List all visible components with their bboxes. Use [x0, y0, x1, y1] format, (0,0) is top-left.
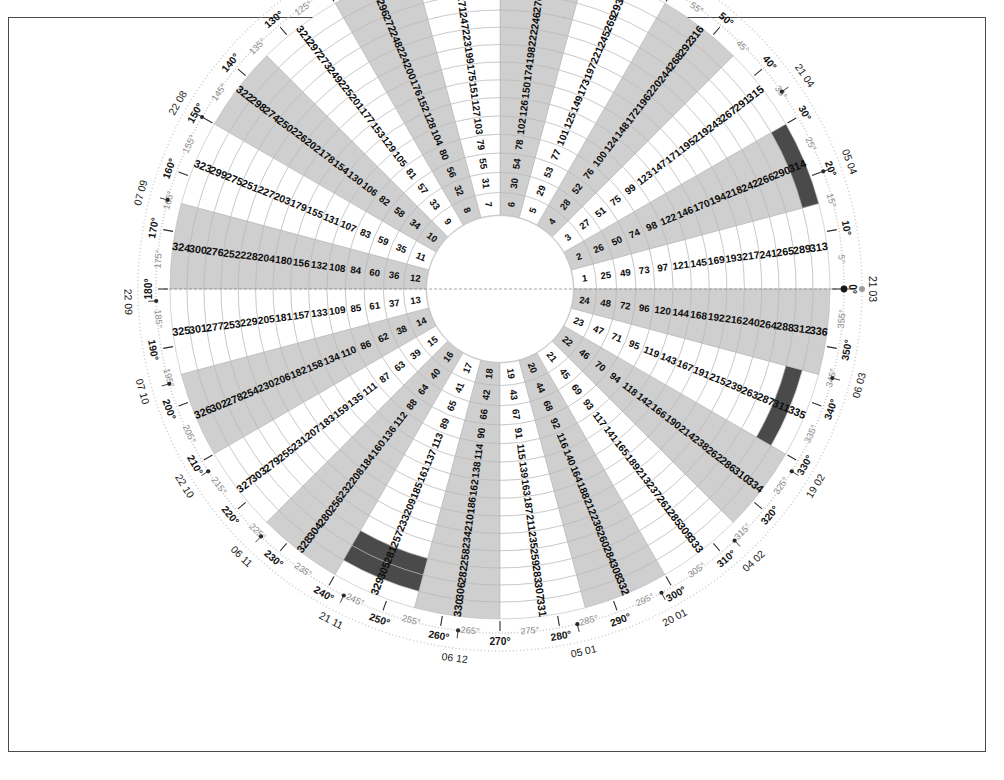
cell-number: 18: [483, 368, 495, 380]
cell-number: 301: [188, 322, 207, 336]
cell-number: 19: [505, 368, 517, 380]
degree-tick: [204, 118, 213, 123]
cell-number: 169: [707, 254, 726, 267]
degree-label: 140°: [219, 51, 241, 74]
degree-label: 265°: [460, 625, 480, 637]
degree-label: 250°: [368, 611, 392, 629]
cell-number: 43: [508, 389, 520, 401]
date-label: 22 10: [173, 472, 196, 500]
date-tick-dot: [259, 534, 263, 538]
cell-number: 187: [522, 496, 535, 515]
degree-label: 220°: [219, 504, 241, 527]
cell-number: 300: [188, 242, 207, 256]
date-tick-dot: [200, 115, 204, 119]
degree-label: 270°: [489, 636, 510, 647]
cell-number: 91: [513, 427, 525, 440]
degree-tick: [666, 577, 671, 586]
date-label: 21 03: [867, 276, 878, 302]
cell-number: 48: [600, 297, 612, 309]
cell-number: 180: [275, 254, 294, 267]
degree-label: 45°: [734, 38, 751, 55]
cell-number: 162: [467, 478, 480, 497]
degree-label: 275°: [520, 625, 540, 637]
date-label: 20 01: [661, 606, 689, 628]
cell-number: 271: [455, 0, 469, 14]
cell-number: 228: [240, 249, 259, 262]
degree-label: 200°: [160, 398, 178, 422]
degree-label: 40°: [760, 53, 778, 72]
degree-label: 230°: [262, 548, 285, 570]
cell-number: 55: [477, 158, 489, 171]
cell-number: 79: [475, 139, 487, 152]
cell-number: 247: [458, 11, 472, 30]
cell-number: 331: [535, 598, 549, 618]
cell-number: 258: [458, 548, 472, 567]
zero-degree-marker: [841, 286, 848, 293]
degree-label: 225°: [247, 521, 268, 542]
cell-number: 222: [526, 28, 539, 47]
degree-label: 335°: [802, 423, 819, 445]
degree-label: 135°: [247, 36, 268, 57]
cell-number: 132: [310, 259, 328, 272]
degree-tick: [713, 27, 719, 35]
degree-label: 240°: [312, 584, 336, 604]
degree-tick: [179, 403, 188, 406]
degree-tick: [280, 543, 286, 551]
polar-chart[interactable]: 1254973971211451691932172412652893132265…: [0, 0, 1004, 780]
cell-number: 144: [672, 306, 690, 319]
cell-number: 198: [524, 46, 537, 65]
degree-tick: [204, 455, 213, 460]
cell-number: 138: [470, 460, 483, 478]
date-tick-dot: [733, 538, 737, 542]
date-tick-dot: [167, 382, 171, 386]
degree-label: 30°: [796, 104, 813, 123]
degree-label: 185°: [152, 309, 164, 329]
degree-tick: [329, 577, 334, 586]
cell-number: 126: [517, 99, 530, 117]
date-label: 07 09: [132, 179, 149, 207]
degree-label: 305°: [686, 560, 708, 579]
date-label: 06 12: [441, 651, 468, 665]
degree-label: 5°: [836, 254, 847, 264]
cell-number: 36: [388, 269, 400, 281]
degree-tick: [163, 347, 173, 349]
degree-tick: [788, 118, 797, 123]
date-label: 21 04: [793, 62, 817, 90]
cell-number: 277: [205, 319, 224, 333]
cell-number: 114: [472, 443, 485, 461]
cell-number: 216: [724, 313, 743, 326]
cell-number: 103: [472, 117, 485, 135]
cell-number: 90: [475, 427, 487, 439]
degree-label: 15°: [825, 192, 838, 208]
cell-number: 252: [222, 247, 241, 261]
chart-canvas: 1254973971211451691932172412652893132265…: [0, 0, 1004, 780]
cell-number: 49: [619, 266, 631, 278]
degree-tick: [713, 543, 719, 551]
degree-label: 285°: [578, 613, 599, 628]
date-label: 19 02: [804, 472, 827, 500]
date-label: 06 11: [229, 544, 255, 570]
date-tick-dot: [821, 169, 825, 173]
cell-number: 217: [742, 249, 761, 262]
degree-label: 50°: [717, 10, 736, 28]
cell-number: 139: [517, 461, 530, 479]
degree-label: 255°: [401, 613, 422, 628]
date-tick-dot: [575, 622, 579, 626]
degree-tick: [754, 502, 762, 508]
cell-number: 12: [410, 272, 422, 284]
cell-number: 306: [453, 581, 467, 600]
date-tick-dot: [659, 591, 663, 595]
cell-number: 60: [369, 266, 381, 278]
date-tick-dot: [206, 469, 210, 473]
degree-tick: [163, 230, 173, 232]
degree-label: 205°: [181, 423, 198, 445]
cell-number: 13: [410, 294, 422, 306]
cell-number: 157: [292, 309, 311, 322]
degree-label: 295°: [634, 591, 656, 608]
cell-number: 30: [508, 177, 520, 189]
degree-label: 355°: [836, 309, 848, 329]
degree-tick: [812, 403, 821, 406]
date-label: 04 02: [740, 548, 767, 574]
cell-number: 150: [520, 81, 533, 100]
date-label: 22 09: [122, 289, 134, 316]
